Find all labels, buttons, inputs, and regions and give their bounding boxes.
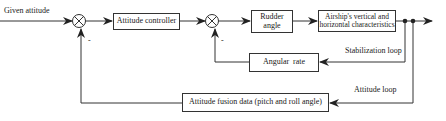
pickoff-dot-stabilization-icon	[403, 19, 408, 24]
angular-rate-label: Angular rate	[263, 58, 305, 67]
stabilization-loop-label: Stabilization loop	[345, 46, 402, 55]
attitude-loop-label: Attitude loop	[354, 85, 396, 94]
input-label: Given attitude	[4, 6, 50, 15]
rudder-angle-label-line2: angle	[263, 22, 280, 31]
attitude-controller-block: Attitude controller	[113, 13, 180, 30]
summing-junction-1-icon	[73, 15, 86, 28]
attitude-fusion-block: Attitude fusion data (pitch and roll ang…	[182, 93, 329, 112]
airship-label-line2: horizontal characteristics	[319, 21, 394, 30]
summing-junction-2-icon	[206, 15, 219, 28]
sum2-minus-sign: -	[221, 36, 224, 45]
attitude-fusion-label: Attitude fusion data (pitch and roll ang…	[189, 98, 322, 107]
airship-characteristics-block: Airship's vertical and horizontal charac…	[318, 10, 396, 32]
rudder-angle-block: Rudder angle	[251, 10, 293, 33]
attitude-controller-label: Attitude controller	[117, 17, 176, 26]
sum1-minus-sign: -	[88, 36, 91, 45]
pickoff-dot-attitude-icon	[411, 19, 416, 24]
angular-rate-block: Angular rate	[249, 53, 319, 72]
